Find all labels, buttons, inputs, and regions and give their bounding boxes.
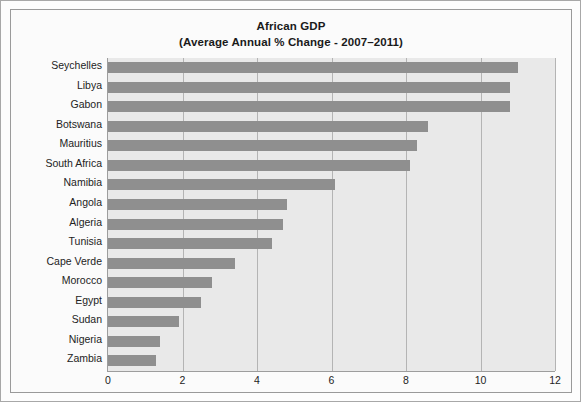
- bar: [108, 179, 335, 190]
- category-label: Morocco: [62, 274, 102, 287]
- bar-row: Seychelles: [108, 58, 555, 78]
- bar-row: Libya: [108, 78, 555, 98]
- bar: [108, 219, 283, 230]
- gridline: [555, 58, 556, 371]
- bar: [108, 160, 410, 171]
- category-label: Seychelles: [51, 59, 102, 72]
- x-tick-label: 10: [475, 374, 487, 386]
- page-title: African GDP: [11, 18, 571, 34]
- bar-row: Tunisia: [108, 234, 555, 254]
- bar: [108, 316, 179, 327]
- category-label: Algeria: [69, 216, 102, 229]
- bar: [108, 140, 417, 151]
- chart-frame: African GDP (Average Annual % Change - 2…: [10, 9, 572, 393]
- bar: [108, 355, 156, 366]
- category-label: Mauritius: [59, 137, 102, 150]
- category-label: Libya: [77, 79, 102, 92]
- bar-row: Mauritius: [108, 136, 555, 156]
- bar-row: Sudan: [108, 312, 555, 332]
- category-label: Cape Verde: [47, 255, 102, 268]
- chart-title-block: African GDP (Average Annual % Change - 2…: [11, 18, 571, 50]
- bar: [108, 258, 235, 269]
- bar-row: Cape Verde: [108, 254, 555, 274]
- category-label: Sudan: [72, 313, 102, 326]
- bar-row: Namibia: [108, 175, 555, 195]
- bar-row: Gabon: [108, 97, 555, 117]
- bar: [108, 277, 212, 288]
- x-tick-label: 0: [105, 374, 111, 386]
- bar: [108, 62, 518, 73]
- category-label: Namibia: [63, 176, 102, 189]
- bar: [108, 199, 287, 210]
- category-label: Angola: [69, 196, 102, 209]
- bar-row: Zambia: [108, 351, 555, 371]
- category-label: Egypt: [75, 294, 102, 307]
- category-label: Tunisia: [69, 235, 102, 248]
- bar: [108, 336, 160, 347]
- category-label: South Africa: [45, 157, 102, 170]
- x-tick-label: 12: [549, 374, 561, 386]
- x-tick-label: 2: [180, 374, 186, 386]
- bar-row: Nigeria: [108, 332, 555, 352]
- bar-row: Botswana: [108, 117, 555, 137]
- plot-area: SeychellesLibyaGabonBotswanaMauritiusSou…: [107, 58, 555, 372]
- category-label: Botswana: [56, 118, 102, 131]
- chart-subtitle: (Average Annual % Change - 2007–2011): [11, 34, 571, 50]
- bar-row: Morocco: [108, 273, 555, 293]
- category-label: Nigeria: [69, 333, 102, 346]
- bar: [108, 297, 201, 308]
- bar-row: Angola: [108, 195, 555, 215]
- bar: [108, 82, 510, 93]
- bar: [108, 121, 428, 132]
- bar-row: Algeria: [108, 215, 555, 235]
- category-label: Gabon: [70, 98, 102, 111]
- bar: [108, 238, 272, 249]
- bar-row: Egypt: [108, 293, 555, 313]
- x-tick-label: 6: [329, 374, 335, 386]
- x-tick-label: 4: [254, 374, 260, 386]
- x-tick-label: 8: [403, 374, 409, 386]
- bar: [108, 101, 510, 112]
- category-label: Zambia: [67, 352, 102, 365]
- bar-row: South Africa: [108, 156, 555, 176]
- chart-page: African GDP (Average Annual % Change - 2…: [0, 0, 581, 402]
